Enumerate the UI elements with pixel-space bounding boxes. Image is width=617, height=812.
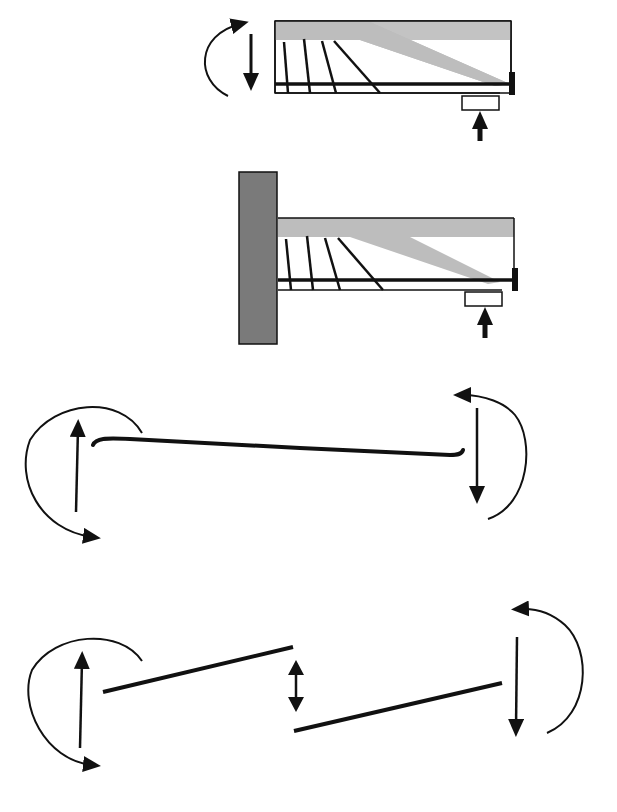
left-shear-arrow-up-icon [80, 660, 82, 748]
deflected-beam-curve [93, 439, 463, 455]
panel-beam-end-free [205, 21, 515, 141]
shear-cracks [286, 236, 383, 290]
end-anchor-plate [512, 268, 518, 291]
right-moment-arc-icon [520, 609, 583, 733]
column [239, 172, 277, 344]
right-moment-arc-icon [462, 395, 526, 519]
panel-continuous-beam-deflected [26, 395, 527, 537]
bearing-pad [462, 96, 499, 110]
left-moment-arc-icon [26, 407, 142, 537]
end-anchor-plate [509, 72, 515, 95]
left-beam-segment [103, 647, 293, 692]
relative-slip-double-arrow-icon [288, 660, 304, 712]
panel-corbel-on-column [239, 172, 518, 344]
diagram-canvas [0, 0, 617, 812]
right-beam-segment [294, 683, 502, 731]
left-moment-arc-icon [28, 639, 142, 765]
right-shear-arrow-down-icon [516, 637, 517, 728]
bearing-pad [465, 292, 502, 306]
moment-arc-icon [205, 24, 240, 96]
panel-beam-with-shear-slip [28, 609, 582, 765]
left-shear-arrow-up-icon [76, 428, 78, 512]
